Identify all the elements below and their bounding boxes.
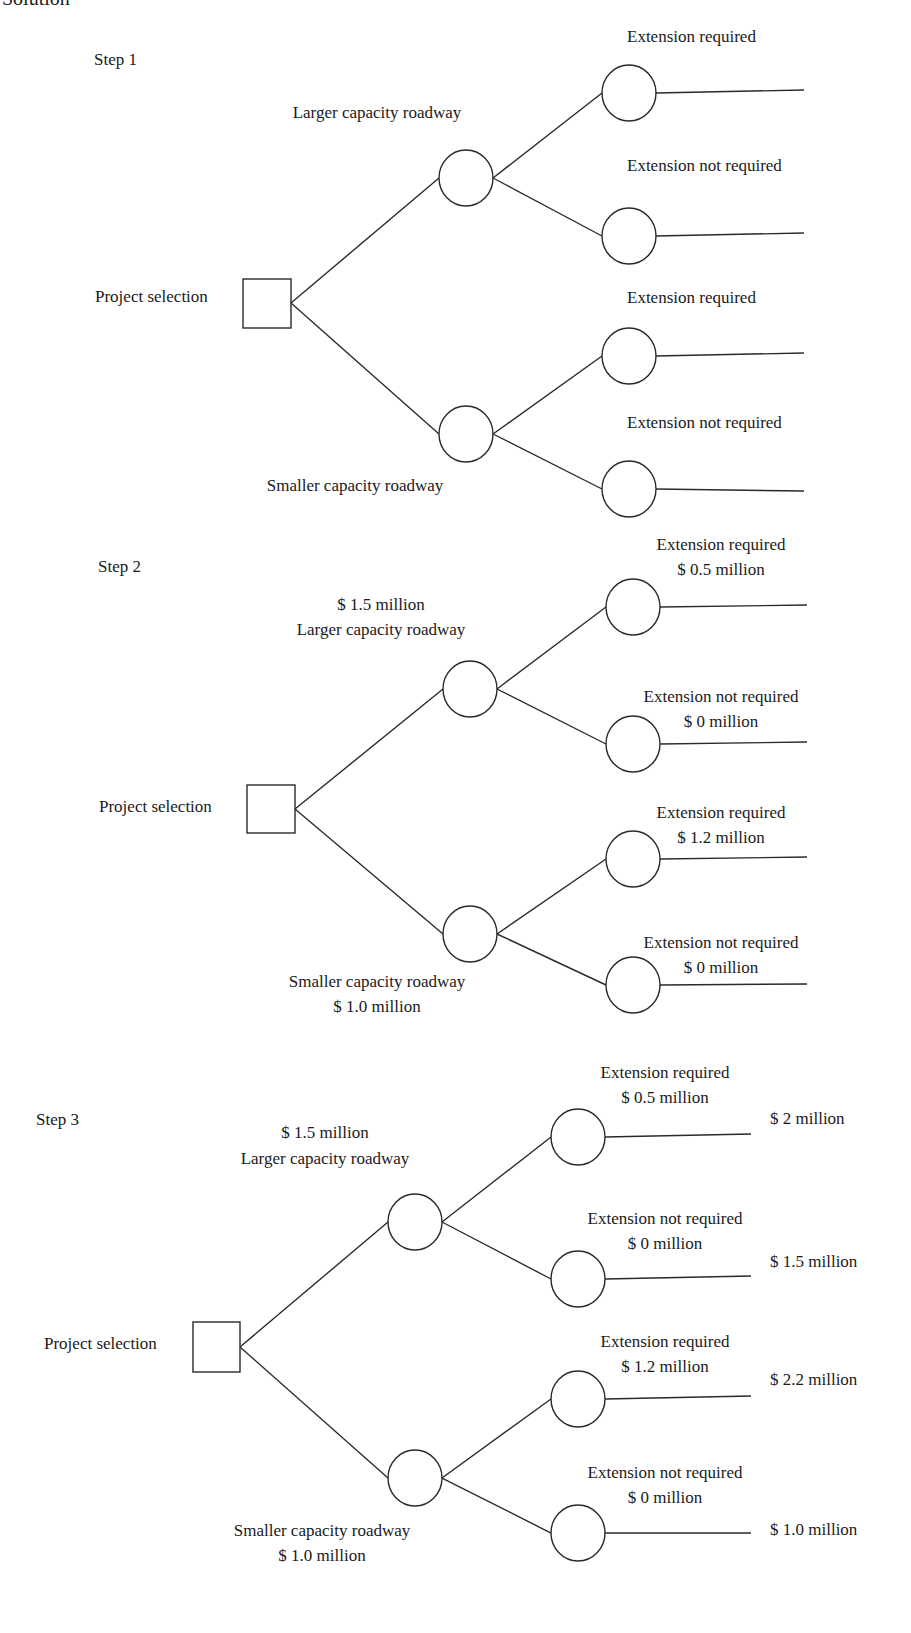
branch-line: [497, 607, 606, 689]
decision-node: [193, 1322, 240, 1372]
outcome-label: Extension required: [627, 288, 756, 308]
branch-line: [493, 356, 602, 434]
branch-line: [295, 809, 443, 934]
branch-label-larger: Larger capacity roadway: [297, 620, 466, 640]
payoff-value: $ 1.5 million: [770, 1252, 857, 1272]
outcome-cost: $ 0 million: [684, 712, 759, 732]
terminal-line: [660, 605, 807, 607]
outcome-cost: $ 0.5 million: [621, 1088, 708, 1108]
branch-label-smaller: Smaller capacity roadway: [267, 476, 444, 496]
branch-line: [295, 689, 443, 809]
chance-node-outcome: [602, 65, 656, 121]
terminal-line: [656, 489, 804, 491]
branch-line: [442, 1399, 551, 1478]
branch-label-larger: Larger capacity roadway: [241, 1149, 410, 1169]
branch-cost-larger: $ 1.5 million: [337, 595, 424, 615]
chance-node-outcome: [551, 1371, 605, 1427]
branch-line: [240, 1347, 388, 1478]
terminal-line: [605, 1276, 751, 1279]
outcome-label: Extension not required: [644, 687, 799, 707]
branch-line: [493, 178, 602, 236]
decision-node: [247, 785, 295, 833]
branch-label-smaller: Smaller capacity roadway: [234, 1521, 411, 1541]
outcome-label: Extension not required: [627, 413, 782, 433]
step-label: Step 3: [36, 1110, 79, 1130]
outcome-label: Extension required: [657, 535, 786, 555]
chance-node-outcome: [602, 208, 656, 264]
chance-node-outcome: [606, 579, 660, 635]
branch-line: [442, 1137, 551, 1222]
outcome-label: Extension not required: [588, 1209, 743, 1229]
chance-node-outcome: [551, 1505, 605, 1561]
branch-cost-smaller: $ 1.0 million: [278, 1546, 365, 1566]
branch-line: [442, 1478, 551, 1533]
chance-node-larger: [443, 661, 497, 717]
branch-line: [442, 1222, 551, 1279]
branch-cost-smaller: $ 1.0 million: [333, 997, 420, 1017]
outcome-label: Extension required: [627, 27, 756, 47]
chance-node-larger: [439, 150, 493, 206]
terminal-line: [656, 353, 804, 356]
terminal-line: [656, 233, 804, 236]
chance-node-outcome: [606, 957, 660, 1013]
payoff-value: $ 2.2 million: [770, 1370, 857, 1390]
branch-line: [493, 434, 602, 489]
outcome-label: Extension required: [601, 1063, 730, 1083]
chance-node-outcome: [551, 1109, 605, 1165]
outcome-cost: $ 0 million: [684, 958, 759, 978]
branch-line: [291, 303, 439, 434]
terminal-line: [660, 857, 807, 859]
terminal-line: [605, 1134, 751, 1137]
decision-node: [243, 279, 291, 328]
payoff-value: $ 1.0 million: [770, 1520, 857, 1540]
branch-cost-larger: $ 1.5 million: [281, 1123, 368, 1143]
chance-node-outcome: [602, 461, 656, 517]
outcome-cost: $ 1.2 million: [677, 828, 764, 848]
branch-line: [291, 178, 439, 303]
chance-node-smaller: [439, 406, 493, 462]
step-label: Step 1: [94, 50, 137, 70]
terminal-line: [605, 1396, 751, 1399]
terminal-line: [660, 742, 807, 744]
decision-label: Project selection: [99, 797, 212, 817]
chance-node-outcome: [551, 1251, 605, 1307]
outcome-label: Extension required: [601, 1332, 730, 1352]
branch-label-smaller: Smaller capacity roadway: [289, 972, 466, 992]
branch-line: [493, 93, 602, 178]
chance-node-outcome: [606, 716, 660, 772]
decision-label: Project selection: [44, 1334, 157, 1354]
outcome-cost: $ 1.2 million: [621, 1357, 708, 1377]
chance-node-outcome: [606, 831, 660, 887]
page-heading: Solution: [2, 0, 70, 8]
decision-label: Project selection: [95, 287, 208, 307]
chance-node-larger: [388, 1194, 442, 1250]
chance-node-smaller: [443, 906, 497, 962]
outcome-label: Extension not required: [627, 156, 782, 176]
chance-node-smaller: [388, 1450, 442, 1506]
branch-line: [497, 689, 606, 744]
payoff-value: $ 2 million: [770, 1109, 845, 1129]
outcome-label: Extension not required: [588, 1463, 743, 1483]
terminal-line: [660, 984, 807, 985]
outcome-label: Extension not required: [644, 933, 799, 953]
outcome-label: Extension required: [657, 803, 786, 823]
branch-line: [240, 1222, 388, 1347]
outcome-cost: $ 0 million: [628, 1234, 703, 1254]
terminal-line: [656, 90, 804, 93]
step-label: Step 2: [98, 557, 141, 577]
branch-line: [497, 934, 606, 985]
branch-label-larger: Larger capacity roadway: [293, 103, 462, 123]
branch-line: [497, 859, 606, 934]
outcome-cost: $ 0 million: [628, 1488, 703, 1508]
outcome-cost: $ 0.5 million: [677, 560, 764, 580]
chance-node-outcome: [602, 328, 656, 384]
